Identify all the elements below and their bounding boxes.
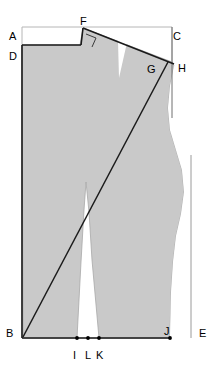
point-marker-i xyxy=(75,336,79,340)
vertex-label-h: H xyxy=(178,63,186,74)
point-marker-l xyxy=(86,336,90,340)
vertex-label-d: D xyxy=(9,51,17,62)
point-marker-k xyxy=(97,336,101,340)
vertex-label-k: K xyxy=(96,350,103,361)
vertex-label-e: E xyxy=(199,328,206,339)
vertex-label-g: G xyxy=(147,64,156,75)
vertex-label-f: F xyxy=(80,16,87,27)
vertex-label-b: B xyxy=(6,328,13,339)
pattern-figure-svg xyxy=(0,0,213,384)
vertex-label-c: C xyxy=(173,31,181,42)
vertex-label-a: A xyxy=(9,31,16,42)
vertex-label-j: J xyxy=(164,326,170,337)
pattern-diagram: A C F D H G B E J I L K xyxy=(0,0,213,384)
vertex-label-i: I xyxy=(73,350,76,361)
vertex-label-l: L xyxy=(85,350,91,361)
